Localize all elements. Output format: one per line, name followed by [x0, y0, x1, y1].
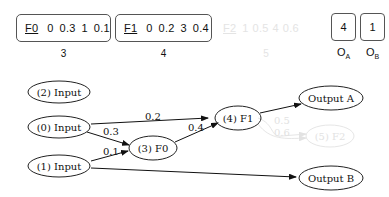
edge-label-in0-f0: 0.3	[103, 126, 119, 137]
node-input-1: (1) Input	[28, 155, 90, 177]
node-output-b: Output B	[299, 166, 363, 190]
node-input-0: (0) Input	[28, 116, 90, 138]
node-label: (1) Input	[37, 161, 82, 172]
edge-label-in1-f0: 0.1	[103, 146, 119, 157]
edge-label-f2-a: 0.5	[274, 115, 290, 126]
cgp-graph: 0.5 0.6 (5) F2 0.2 0.3 0.1 0.4 (2) Input…	[0, 0, 389, 197]
node-label: Output A	[308, 93, 355, 104]
node-f1: (4) F1	[215, 106, 261, 130]
edge-label-f2-b: 0.6	[274, 127, 290, 138]
node-input-2: (2) Input	[28, 81, 90, 103]
node-label: (3) F0	[138, 143, 169, 154]
node-label: (0) Input	[37, 122, 82, 133]
node-output-a: Output A	[299, 86, 363, 110]
node-f0: (3) F0	[129, 136, 177, 160]
node-f2-inactive: (5) F2	[306, 125, 354, 147]
edges: 0.2 0.3 0.1 0.4	[87, 104, 301, 177]
node-label: Output B	[308, 173, 354, 184]
edge-label-f0-f1: 0.4	[188, 122, 204, 133]
edge-label-in0-f1: 0.2	[145, 111, 161, 122]
node-label: (4) F1	[223, 113, 254, 124]
node-label: (5) F2	[315, 131, 346, 142]
inactive-edges: 0.5 0.6	[258, 115, 306, 138]
node-label: (2) Input	[37, 87, 82, 98]
